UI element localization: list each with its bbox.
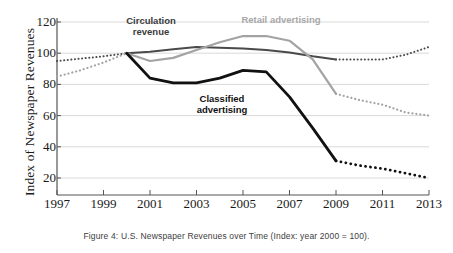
figure-caption: Figure 4: U.S. Newspaper Revenues over T…	[0, 231, 453, 241]
y-tick-80: 80	[26, 76, 56, 92]
x-tick-2003: 2003	[177, 196, 217, 212]
y-tick-60: 60	[26, 108, 56, 124]
x-tick-2005: 2005	[223, 196, 263, 212]
x-tick-1997: 1997	[37, 196, 77, 212]
x-tick-2013: 2013	[409, 196, 449, 212]
x-tick-1999: 1999	[84, 196, 124, 212]
y-tick-120: 120	[26, 14, 56, 30]
y-tick-100: 100	[26, 45, 56, 61]
x-tick-2001: 2001	[130, 196, 170, 212]
series-label-circulation: Circulation revenue	[116, 15, 186, 37]
y-tick-20: 20	[26, 170, 56, 186]
series-label-classified: Classified advertising	[185, 93, 259, 115]
figure-container: Index of Newspaper Revenues 120 100 80 6…	[0, 0, 453, 253]
y-tick-40: 40	[26, 139, 56, 155]
x-tick-2007: 2007	[270, 196, 310, 212]
x-tick-2011: 2011	[363, 196, 403, 212]
chart-plot-area: Index of Newspaper Revenues 120 100 80 6…	[0, 0, 453, 225]
x-tick-2009: 2009	[316, 196, 356, 212]
series-label-retail: Retail advertising	[238, 14, 324, 25]
